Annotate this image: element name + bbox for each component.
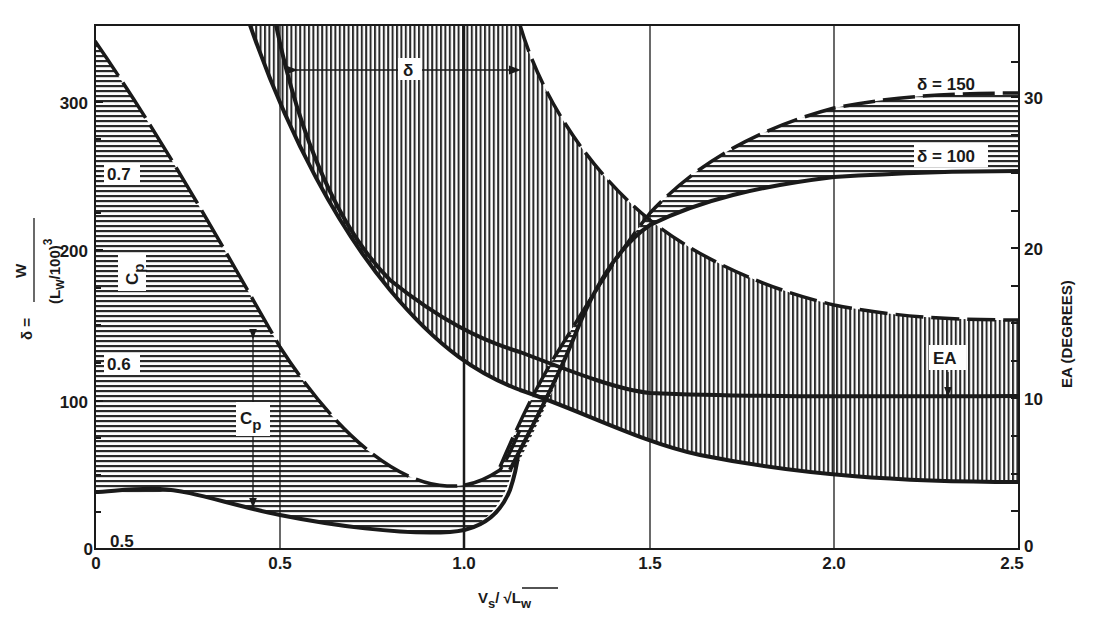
cp-value-0.5: 0.5 [110,532,134,551]
x-tick-0: 0 [91,554,100,573]
x-tick-1.0: 1.0 [452,554,476,573]
x-tick-2.0: 2.0 [822,554,846,573]
svg-text:(LW/100)3: (LW/100)3 [41,238,66,304]
y-tick-300: 300 [60,94,88,113]
delta-arrow-label: δ [403,61,413,80]
x-tick-0.5: 0.5 [268,554,292,573]
ylabel-den: (L [46,290,63,304]
y-tick-200: 200 [60,242,88,261]
xlabel-s: s [488,596,495,611]
cp-value-0.6: 0.6 [107,355,131,374]
svg-text:Vs/ √Lw: Vs/ √Lw [478,589,532,611]
y2-tick-10: 10 [1024,390,1043,409]
xlabel-w: w [520,596,532,611]
cp-value-0.7: 0.7 [107,165,131,184]
delta100-label: δ = 100 [917,147,975,166]
y2-tick-0: 0 [1024,537,1033,556]
y2-tick-20: 20 [1024,240,1043,259]
ylabel-num: W [12,263,29,278]
ylabel-delta: δ = [18,318,35,340]
y-tick-100: 100 [60,393,88,412]
xlabel-v: V [478,589,488,606]
delta150-label: δ = 150 [917,75,975,94]
x-axis-title: Vs/ √Lw [478,588,558,611]
y-axis-title: δ = W (LW/100)3 [12,218,66,340]
xlabel-slash: / √ [495,589,512,606]
x-tick-1.5: 1.5 [638,554,662,573]
plot-area [95,25,1019,533]
x-tick-2.5: 2.5 [1000,554,1024,573]
y2-tick-30: 30 [1024,89,1043,108]
cp-label-vertical: Cp [118,255,147,291]
ylabel-den-rest: /100) [46,245,63,279]
ylabel-exp: 3 [41,238,55,245]
ea-label: EA [933,349,957,368]
chart-svg: 300 200 100 0 30 20 10 0 0 0.5 1.0 1.5 2… [0,0,1095,622]
y2-axis-title: EA (DEGREES) [1058,280,1075,388]
ylabel-den-sub: W [54,279,66,290]
xlabel-l: L [512,589,521,606]
